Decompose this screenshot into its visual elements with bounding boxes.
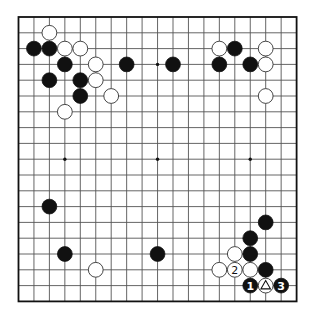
white-stone: 2 <box>227 262 242 277</box>
white-stone <box>212 41 227 56</box>
black-stone-circle <box>243 231 258 246</box>
black-stone-circle <box>243 57 258 72</box>
black-stone <box>42 73 57 88</box>
white-stone-circle <box>57 104 72 119</box>
go-board-diagram: 213 <box>0 0 312 322</box>
white-stone <box>88 57 103 72</box>
white-stone <box>57 41 72 56</box>
white-stone-circle <box>42 25 57 40</box>
white-stone <box>42 25 57 40</box>
white-stone <box>258 57 273 72</box>
black-stone <box>243 247 258 262</box>
black-stone: 3 <box>274 278 289 293</box>
white-stone <box>258 41 273 56</box>
black-stone-circle <box>119 57 134 72</box>
white-stone <box>57 104 72 119</box>
black-stone-circle <box>243 247 258 262</box>
black-stone-circle <box>258 262 273 277</box>
black-stone-circle <box>258 215 273 230</box>
black-stone <box>258 215 273 230</box>
black-stone <box>73 73 88 88</box>
move-number-label: 3 <box>277 280 285 293</box>
white-stone-circle <box>88 73 103 88</box>
black-stone <box>243 231 258 246</box>
white-stone <box>258 89 273 104</box>
white-stone <box>212 262 227 277</box>
white-stone-circle <box>258 89 273 104</box>
black-stone: 1 <box>243 278 258 293</box>
white-stone-circle <box>73 41 88 56</box>
black-stone <box>258 262 273 277</box>
black-stone <box>27 41 42 56</box>
black-stone-circle <box>42 41 57 56</box>
black-stone <box>42 199 57 214</box>
star-point <box>63 158 66 161</box>
black-stone <box>166 57 181 72</box>
black-stone-circle <box>57 247 72 262</box>
white-stone-circle <box>104 89 119 104</box>
white-stone <box>227 247 242 262</box>
move-number-label: 1 <box>246 280 254 293</box>
star-point <box>156 63 159 66</box>
white-stone-circle <box>88 57 103 72</box>
white-stone <box>243 262 258 277</box>
black-stone <box>42 41 57 56</box>
black-stone-circle <box>166 57 181 72</box>
white-stone-circle <box>258 57 273 72</box>
black-stone <box>227 41 242 56</box>
star-point <box>156 158 159 161</box>
black-stone-circle <box>42 199 57 214</box>
black-stone-circle <box>212 57 227 72</box>
black-stone <box>57 57 72 72</box>
black-stone <box>57 247 72 262</box>
white-stone <box>73 41 88 56</box>
star-point <box>249 158 252 161</box>
white-stone-circle <box>212 262 227 277</box>
black-stone-circle <box>73 73 88 88</box>
white-stone-circle <box>212 41 227 56</box>
white-stone <box>88 73 103 88</box>
black-stone-circle <box>150 247 165 262</box>
white-stone-circle <box>227 247 242 262</box>
black-stone-circle <box>27 41 42 56</box>
black-stone <box>212 57 227 72</box>
black-stone <box>150 247 165 262</box>
black-stone-circle <box>227 41 242 56</box>
black-stone <box>73 89 88 104</box>
black-stone-circle <box>42 73 57 88</box>
go-board: 213 <box>0 0 312 322</box>
black-stone <box>119 57 134 72</box>
move-number-label: 2 <box>231 264 238 277</box>
white-stone <box>258 278 273 293</box>
white-stone <box>88 262 103 277</box>
white-stone <box>104 89 119 104</box>
white-stone-circle <box>258 41 273 56</box>
black-stone-circle <box>57 57 72 72</box>
black-stone-circle <box>73 89 88 104</box>
white-stone-circle <box>243 262 258 277</box>
white-stone-circle <box>57 41 72 56</box>
black-stone <box>243 57 258 72</box>
white-stone-circle <box>88 262 103 277</box>
